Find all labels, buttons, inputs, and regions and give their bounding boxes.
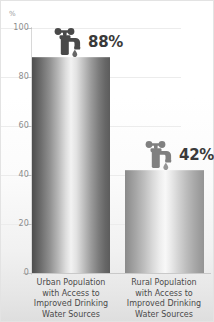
y-tick-label-20: 20	[3, 220, 29, 228]
category-line: Improved Drinking	[23, 299, 119, 310]
category-label-rural: Rural Population with Access to Improved…	[116, 278, 212, 320]
category-line: with Access to	[23, 289, 119, 300]
category-line: Rural Population	[116, 278, 212, 289]
x-axis-baseline	[23, 273, 211, 274]
bar-chart: % 100 80 60 40 20 0	[0, 0, 214, 322]
bar-rural[interactable]	[125, 170, 204, 273]
y-tick-label-0: 0	[3, 269, 29, 277]
faucet-icon-rural	[143, 140, 177, 178]
category-line: Water Sources	[23, 310, 119, 321]
value-label-rural: 42%	[179, 146, 214, 164]
y-tick-label-40: 40	[3, 171, 29, 179]
bar-urban[interactable]	[32, 57, 110, 273]
y-tick-label-60: 60	[3, 122, 29, 130]
category-line: Urban Population	[23, 278, 119, 289]
category-label-urban: Urban Population with Access to Improved…	[23, 278, 119, 320]
value-label-urban: 88%	[88, 33, 123, 51]
y-tick-label-100: 100	[3, 24, 29, 32]
category-line: Improved Drinking	[116, 299, 212, 310]
y-axis-unit-label: %	[9, 10, 16, 18]
category-line: Water Sources	[116, 310, 212, 321]
category-line: with Access to	[116, 289, 212, 300]
faucet-icon-urban	[52, 27, 86, 65]
y-tick-label-80: 80	[3, 73, 29, 81]
